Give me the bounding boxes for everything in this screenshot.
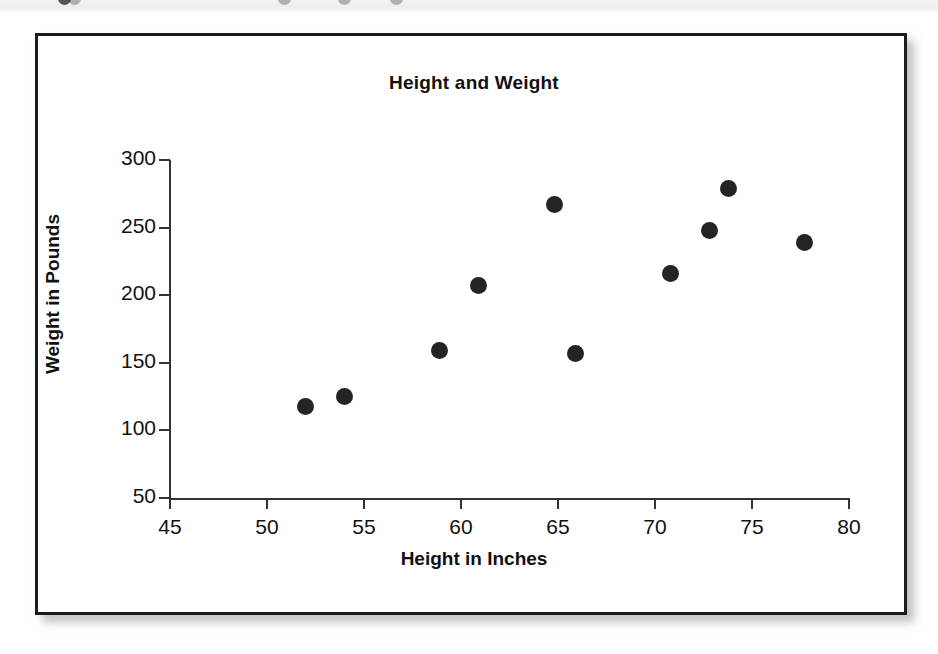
- y-tick-label: 200: [90, 281, 156, 305]
- scatter-chart: Height and Weight 4550556065707580 50100…: [38, 36, 910, 618]
- data-point: [431, 342, 448, 359]
- x-tick-label: 75: [722, 515, 782, 539]
- x-tick: [751, 498, 753, 509]
- y-tick: [159, 227, 170, 229]
- y-tick-label: 300: [90, 146, 156, 170]
- x-tick: [848, 498, 850, 509]
- x-tick-label: 55: [334, 515, 394, 539]
- x-tick-label: 50: [237, 515, 297, 539]
- y-tick: [159, 294, 170, 296]
- y-tick: [159, 362, 170, 364]
- scan-artifact-band: [0, 0, 938, 13]
- data-point: [297, 398, 314, 415]
- x-axis-title: Height in Inches: [38, 548, 910, 570]
- figure-frame: Height and Weight 4550556065707580 50100…: [35, 33, 907, 615]
- y-axis-title: Weight in Pounds: [42, 124, 64, 464]
- y-tick: [159, 159, 170, 161]
- data-point: [567, 345, 584, 362]
- x-tick: [266, 498, 268, 509]
- y-tick-label: 100: [90, 416, 156, 440]
- y-tick-label: 150: [90, 349, 156, 373]
- y-axis-line: [169, 160, 171, 500]
- x-tick-label: 70: [625, 515, 685, 539]
- data-point: [470, 277, 487, 294]
- x-tick-label: 60: [431, 515, 491, 539]
- y-tick: [159, 429, 170, 431]
- data-point: [701, 222, 718, 239]
- y-tick-label: 250: [90, 214, 156, 238]
- data-point: [336, 388, 353, 405]
- data-point: [662, 265, 679, 282]
- chart-title: Height and Weight: [38, 72, 910, 94]
- x-tick-label: 80: [819, 515, 879, 539]
- data-point: [796, 234, 813, 251]
- x-tick: [460, 498, 462, 509]
- x-tick: [363, 498, 365, 509]
- x-tick: [169, 498, 171, 509]
- plot-area: 4550556065707580 50100150200250300: [170, 160, 849, 498]
- artifact-dot: [278, 0, 291, 5]
- y-tick-label: 50: [90, 484, 156, 508]
- artifact-dot: [58, 0, 71, 5]
- x-tick: [654, 498, 656, 509]
- artifact-dot: [338, 0, 351, 5]
- y-tick: [159, 497, 170, 499]
- x-tick-label: 45: [140, 515, 200, 539]
- x-tick: [557, 498, 559, 509]
- x-axis-line: [169, 498, 850, 500]
- data-point: [720, 180, 737, 197]
- data-point: [546, 196, 563, 213]
- artifact-dot: [390, 0, 403, 5]
- x-tick-label: 65: [528, 515, 588, 539]
